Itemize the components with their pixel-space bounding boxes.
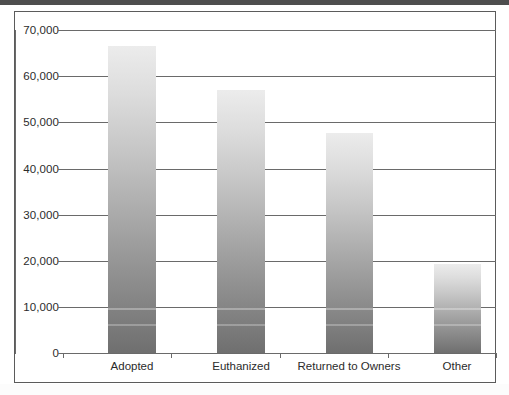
y-axis-labels: 70,000 60,000 50,000 40,000 30,000 20,00… (15, 12, 59, 384)
bar-euthanized[interactable] (217, 90, 265, 353)
x-axis-label-other: Other (443, 360, 472, 372)
x-tick-1 (171, 353, 172, 358)
page-background (0, 384, 509, 395)
x-axis-label-adopted: Adopted (111, 360, 154, 372)
bar-other[interactable] (434, 264, 481, 353)
y-axis-label-60000: 60,000 (23, 70, 59, 82)
y-tick-20000 (58, 261, 63, 262)
y-axis-label-40000: 40,000 (23, 163, 59, 175)
x-tick-right-edge (496, 353, 497, 358)
y-tick-60000 (58, 76, 63, 77)
y-tick-40000 (58, 169, 63, 170)
y-tick-50000 (58, 122, 63, 123)
y-axis-label-70000: 70,000 (23, 24, 59, 36)
y-axis-line (15, 30, 16, 354)
y-axis-label-30000: 30,000 (23, 209, 59, 221)
y-axis-label-10000: 10,000 (23, 301, 59, 313)
y-tick-30000 (58, 215, 63, 216)
bar-adopted[interactable] (108, 46, 156, 353)
chart-frame: 70,000 60,000 50,000 40,000 30,000 20,00… (14, 11, 496, 383)
x-tick-3 (388, 353, 389, 358)
page-top-rule (0, 0, 509, 5)
x-tick-2 (280, 353, 281, 358)
gridline-70000 (63, 30, 496, 31)
y-axis-label-50000: 50,000 (23, 116, 59, 128)
bar-returned-to-owners[interactable] (326, 133, 373, 353)
plot-area (63, 30, 496, 353)
x-tick-left-edge (63, 353, 64, 358)
x-axis-label-euthanized: Euthanized (212, 360, 270, 372)
y-tick-10000 (58, 307, 63, 308)
x-axis-label-returned-to-owners: Returned to Owners (298, 360, 401, 372)
y-tick-70000 (58, 30, 63, 31)
y-axis-label-20000: 20,000 (23, 255, 59, 267)
